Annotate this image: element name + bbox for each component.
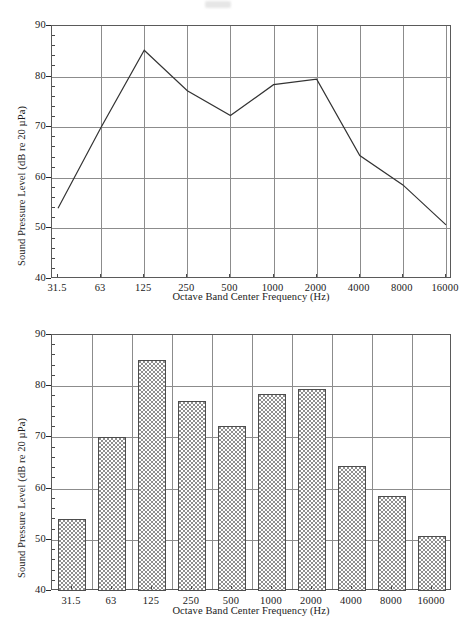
bar-chart-x-tick-label: 1000 bbox=[260, 595, 282, 606]
bar bbox=[58, 519, 87, 591]
y-axis-minor-tick bbox=[52, 65, 55, 66]
y-axis-major-tick bbox=[46, 126, 51, 127]
y-axis-minor-tick bbox=[52, 508, 55, 509]
line-chart-y-tick-label: 70 bbox=[16, 121, 46, 132]
bar-chart-x-tick-label: 31.5 bbox=[61, 595, 80, 606]
y-axis-minor-tick bbox=[52, 55, 55, 56]
scan-artifact bbox=[205, 1, 231, 8]
gridline-vertical bbox=[372, 335, 373, 589]
x-axis-tick bbox=[186, 274, 187, 277]
y-axis-minor-tick bbox=[52, 570, 55, 571]
y-axis-minor-tick bbox=[52, 365, 55, 366]
y-axis-minor-tick bbox=[52, 580, 55, 581]
bar-chart-plot-region bbox=[51, 334, 451, 590]
gridline-vertical bbox=[332, 335, 333, 589]
bar-chart-x-axis-title: Octave Band Center Frequency (Hz) bbox=[51, 605, 451, 616]
bar-chart-x-tick-label: 250 bbox=[183, 595, 199, 606]
y-axis-minor-tick bbox=[52, 197, 55, 198]
y-axis-minor-tick bbox=[52, 447, 55, 448]
y-axis-minor-tick bbox=[52, 395, 55, 396]
x-axis-tick bbox=[57, 274, 58, 277]
x-axis-tick bbox=[151, 586, 152, 589]
line-chart-y-tick-label: 60 bbox=[16, 172, 46, 183]
y-axis-major-tick bbox=[46, 334, 51, 335]
line-chart-x-tick-label: 500 bbox=[221, 282, 237, 293]
bar-chart-x-tick-label: 500 bbox=[223, 595, 239, 606]
y-axis-minor-tick bbox=[52, 549, 55, 550]
line-chart-x-tick-label: 8000 bbox=[391, 282, 413, 293]
gridline-vertical bbox=[92, 335, 93, 589]
y-axis-minor-tick bbox=[52, 187, 55, 188]
y-axis-minor-tick bbox=[52, 86, 55, 87]
line-chart-y-tick-label: 80 bbox=[16, 70, 46, 81]
y-axis-major-tick bbox=[46, 278, 51, 279]
y-axis-minor-tick bbox=[52, 167, 55, 168]
y-axis-major-tick bbox=[46, 227, 51, 228]
bar-chart-y-tick-label: 40 bbox=[16, 585, 46, 596]
y-axis-minor-tick bbox=[52, 136, 55, 137]
y-axis-major-tick bbox=[46, 488, 51, 489]
y-axis-minor-tick bbox=[52, 416, 55, 417]
bar bbox=[138, 360, 167, 591]
bar-chart-x-tick-label: 125 bbox=[143, 595, 159, 606]
gridline-vertical bbox=[252, 335, 253, 589]
line-chart-x-tick-label: 4000 bbox=[348, 282, 370, 293]
bar-chart-y-axis-title: Sound Pressure Level (dB re 20 µPa) bbox=[16, 418, 27, 578]
line-chart-x-tick-label: 1000 bbox=[262, 282, 284, 293]
y-axis-minor-tick bbox=[52, 518, 55, 519]
y-axis-minor-tick bbox=[52, 96, 55, 97]
y-axis-minor-tick bbox=[52, 354, 55, 355]
line-chart-plot-region bbox=[51, 25, 451, 278]
bar-chart-x-tick-label: 16000 bbox=[417, 595, 444, 606]
bar-chart-y-tick-label: 90 bbox=[16, 329, 46, 340]
x-axis-tick bbox=[229, 274, 230, 277]
bar bbox=[98, 437, 127, 591]
bar-chart-y-tick-label: 60 bbox=[16, 482, 46, 493]
x-axis-tick bbox=[100, 274, 101, 277]
bar bbox=[298, 389, 327, 591]
line-chart-x-tick-label: 2000 bbox=[305, 282, 327, 293]
line-chart-y-tick-label: 50 bbox=[16, 222, 46, 233]
gridline-vertical bbox=[412, 335, 413, 589]
x-axis-tick bbox=[271, 586, 272, 589]
y-axis-major-tick bbox=[46, 177, 51, 178]
gridline-vertical bbox=[212, 335, 213, 589]
x-axis-tick bbox=[71, 586, 72, 589]
x-axis-tick bbox=[231, 586, 232, 589]
x-axis-tick bbox=[431, 586, 432, 589]
line-chart-x-tick-label: 125 bbox=[135, 282, 151, 293]
y-axis-major-tick bbox=[46, 590, 51, 591]
line-chart-y-tick-label: 90 bbox=[16, 20, 46, 31]
x-axis-tick bbox=[311, 586, 312, 589]
bar-chart-y-tick-label: 70 bbox=[16, 431, 46, 442]
x-axis-tick bbox=[111, 586, 112, 589]
bar-chart-y-tick-label: 80 bbox=[16, 380, 46, 391]
x-axis-tick bbox=[191, 586, 192, 589]
y-axis-minor-tick bbox=[52, 457, 55, 458]
x-axis-tick bbox=[351, 586, 352, 589]
y-axis-minor-tick bbox=[52, 426, 55, 427]
y-axis-minor-tick bbox=[52, 467, 55, 468]
line-chart-y-tick-label: 40 bbox=[16, 273, 46, 284]
y-axis-minor-tick bbox=[52, 406, 55, 407]
y-axis-minor-tick bbox=[52, 207, 55, 208]
y-axis-minor-tick bbox=[52, 217, 55, 218]
bar-chart-x-tick-label: 63 bbox=[106, 595, 117, 606]
bar-chart-plot-area bbox=[51, 334, 451, 590]
y-axis-minor-tick bbox=[52, 157, 55, 158]
y-axis-minor-tick bbox=[52, 344, 55, 345]
line-chart-x-tick-label: 16000 bbox=[431, 282, 458, 293]
y-axis-minor-tick bbox=[52, 116, 55, 117]
bar bbox=[258, 394, 287, 591]
line-chart-x-tick-label: 31.5 bbox=[47, 282, 66, 293]
gridline-horizontal bbox=[52, 386, 450, 387]
x-axis-tick bbox=[316, 274, 317, 277]
x-axis-tick bbox=[391, 586, 392, 589]
y-axis-minor-tick bbox=[52, 529, 55, 530]
y-axis-minor-tick bbox=[52, 498, 55, 499]
line-chart-plot-area bbox=[51, 25, 451, 278]
x-axis-tick bbox=[402, 274, 403, 277]
y-axis-minor-tick bbox=[52, 35, 55, 36]
bar-chart-x-tick-label: 8000 bbox=[380, 595, 402, 606]
bar-chart-y-tick-label: 50 bbox=[16, 534, 46, 545]
